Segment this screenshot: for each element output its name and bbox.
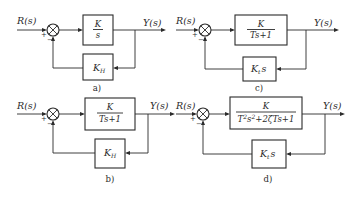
block-diagrams: R(s) + − K s Y(s) KH a) R(s) + − bbox=[0, 0, 364, 197]
arrow-icon bbox=[78, 28, 83, 32]
panel-d: R(s) + − K T2s2+2ζTs+1 Y(s) Kts d) bbox=[175, 97, 345, 184]
arrow-icon bbox=[225, 112, 230, 116]
output-label-d: Y(s) bbox=[323, 100, 342, 111]
arrow-icon bbox=[125, 151, 130, 155]
input-label-b: R(s) bbox=[16, 100, 37, 111]
arrow-icon bbox=[286, 152, 291, 156]
feedback-return-a bbox=[53, 38, 83, 68]
forward-den-b: Ts+1 bbox=[99, 114, 121, 124]
minus-sign-d: − bbox=[196, 120, 202, 128]
input-label-a: R(s) bbox=[16, 15, 37, 26]
caption-b: b) bbox=[106, 174, 115, 184]
arrow-icon bbox=[334, 28, 339, 32]
caption-c: c) bbox=[255, 83, 263, 93]
summing-junction-d bbox=[197, 108, 209, 120]
caption-d: d) bbox=[264, 174, 273, 184]
forward-den-d: T2s2+2ζTs+1 bbox=[238, 113, 295, 124]
output-label-c: Y(s) bbox=[314, 17, 333, 28]
arrow-icon bbox=[161, 28, 166, 32]
arrow-icon bbox=[276, 67, 281, 71]
minus-sign-c: − bbox=[198, 36, 204, 44]
input-label-c: R(s) bbox=[175, 15, 196, 26]
arrow-icon bbox=[230, 28, 235, 32]
feedback-path-a bbox=[115, 30, 135, 68]
output-label-a: Y(s) bbox=[143, 17, 162, 28]
panel-c: R(s) + − K Ts+1 Y(s) Kts c) bbox=[175, 15, 339, 93]
forward-den-a: s bbox=[96, 30, 101, 40]
arrow-icon bbox=[113, 66, 118, 70]
summing-junction-b bbox=[47, 108, 59, 120]
arrow-icon bbox=[80, 112, 85, 116]
forward-num-c: K bbox=[257, 19, 265, 29]
forward-den-c: Ts+1 bbox=[250, 30, 272, 40]
forward-num-b: K bbox=[106, 102, 114, 112]
panel-a: R(s) + − K s Y(s) KH a) bbox=[16, 15, 166, 93]
forward-num-a: K bbox=[94, 19, 102, 29]
summing-junction-c bbox=[199, 24, 211, 36]
caption-a: a) bbox=[93, 83, 101, 93]
forward-num-d: K bbox=[262, 101, 270, 111]
output-label-b: Y(s) bbox=[150, 100, 169, 111]
input-label-d: R(s) bbox=[175, 100, 196, 111]
arrow-icon bbox=[340, 112, 345, 116]
panel-b: R(s) + − K Ts+1 Y(s) KH b) bbox=[16, 98, 175, 184]
arrow-icon bbox=[170, 112, 175, 116]
summing-junction-a bbox=[47, 24, 59, 36]
